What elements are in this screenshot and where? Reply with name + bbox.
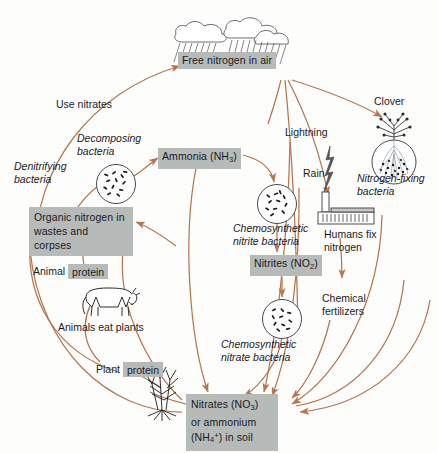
label-chemical-fertilizers: Chemical fertilizers bbox=[322, 292, 384, 317]
organic-nitrogen-line2: wastes and corpses bbox=[34, 225, 88, 251]
bacteria-colony-icon-decomposers bbox=[95, 163, 137, 205]
node-plant-protein[interactable]: Plantprotein bbox=[96, 363, 163, 375]
animal-protein-prefix: Animal bbox=[33, 265, 65, 277]
humans-fix-line1: Humans fix bbox=[324, 228, 377, 240]
plant-protein-prefix: Plant bbox=[96, 363, 120, 375]
denitrifying-line1: Denitrifying bbox=[14, 160, 67, 172]
label-decomposing-bacteria: Decomposing bacteria bbox=[77, 132, 155, 157]
denitrifying-line2: bacteria bbox=[14, 173, 51, 185]
arrow-into-organic-from-right bbox=[136, 222, 176, 246]
decomposing-line1: Decomposing bbox=[77, 132, 141, 144]
label-animals-eat-plants: Animals eat plants bbox=[58, 321, 144, 334]
nfix-line1: Nitrogen-fixing bbox=[357, 172, 425, 184]
label-denitrifying-bacteria: Denitrifying bacteria bbox=[14, 160, 84, 185]
decomposing-line2: bacteria bbox=[77, 145, 114, 157]
node-free-nitrogen-in-air[interactable]: Free nitrogen in air bbox=[178, 52, 276, 69]
node-organic-nitrogen[interactable]: Organic nitrogen in wastes and corpses bbox=[29, 207, 133, 256]
grazing-cow-icon bbox=[78, 283, 144, 319]
cs-nitrate-line1: Chemosynthetic bbox=[221, 338, 296, 350]
cs-nitrite-line2: nitrite bacteria bbox=[233, 235, 299, 247]
bacteria-colony-icon-nitrite bbox=[256, 183, 298, 225]
label-use-nitrates: Use nitrates bbox=[56, 98, 112, 111]
node-animal-protein[interactable]: Animalprotein bbox=[33, 265, 108, 277]
humans-fix-line2: nitrogen bbox=[324, 241, 362, 253]
node-ammonia[interactable]: Ammonia (NH3) bbox=[158, 148, 241, 169]
organic-nitrogen-line1: Organic nitrogen in bbox=[34, 211, 125, 223]
chem-fert-line1: Chemical bbox=[322, 292, 366, 304]
label-chemosynthetic-nitrate-bacteria: Chemosynthetic nitrate bacteria bbox=[221, 338, 311, 363]
arrow-decomposers-to-ammonia bbox=[134, 158, 158, 176]
node-soil-nitrates-ammonium[interactable]: Nitrates (NO3)or ammonium(NH4+) in soil bbox=[186, 394, 278, 451]
label-humans-fix-nitrogen: Humans fix nitrogen bbox=[324, 228, 388, 253]
label-rain: Rain bbox=[303, 167, 325, 180]
animal-protein-chip: protein bbox=[68, 264, 108, 280]
label-chemosynthetic-nitrite-bacteria: Chemosynthetic nitrite bacteria bbox=[233, 222, 319, 247]
arrow-ammonia-to-nitrite-bacteria bbox=[243, 155, 274, 182]
nfix-line2: bacteria bbox=[357, 185, 394, 197]
arrow-air-to-lightning bbox=[268, 80, 281, 124]
label-nitrogen-fixing-bacteria: Nitrogen-fixing bacteria bbox=[357, 172, 435, 197]
bacteria-colony-icon-nitrate bbox=[261, 298, 303, 340]
label-clover: Clover bbox=[374, 95, 404, 108]
cs-nitrite-line1: Chemosynthetic bbox=[233, 222, 308, 234]
cs-nitrate-line2: nitrate bacteria bbox=[221, 351, 290, 363]
node-nitrites[interactable]: Nitrites (NO2) bbox=[250, 255, 322, 276]
nitrogen-cycle-diagram: Free nitrogen in air Ammonia (NH3) Nitri… bbox=[0, 0, 438, 453]
chem-fert-line2: fertilizers bbox=[322, 305, 364, 317]
plant-protein-chip: protein bbox=[123, 362, 163, 378]
label-lightning: Lightning bbox=[285, 126, 328, 139]
arrow-ammonia-to-soil bbox=[189, 168, 208, 392]
